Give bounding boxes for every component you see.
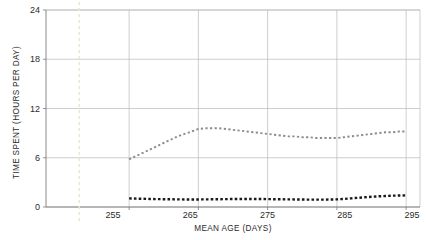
y-tick-label: 6 xyxy=(10,153,40,163)
chart-plot-area xyxy=(0,0,428,240)
x-tick-label: 265 xyxy=(168,210,212,220)
y-tick-label: 18 xyxy=(10,54,40,64)
x-tick-label: 275 xyxy=(246,210,290,220)
chart-figure: TIME SPENT (HOURS PER DAY) MEAN AGE (DAY… xyxy=(0,0,428,240)
y-tick-label: 24 xyxy=(10,5,40,15)
x-tick-label: 255 xyxy=(91,210,135,220)
x-axis-title: MEAN AGE (DAYS) xyxy=(46,224,420,233)
y-axis-tick-labels: 0 6 12 18 24 xyxy=(8,0,40,240)
x-tick-label: 285 xyxy=(323,210,367,220)
x-tick-label: 295 xyxy=(390,210,428,220)
y-tick-label: 0 xyxy=(10,202,40,212)
y-tick-label: 12 xyxy=(10,104,40,114)
